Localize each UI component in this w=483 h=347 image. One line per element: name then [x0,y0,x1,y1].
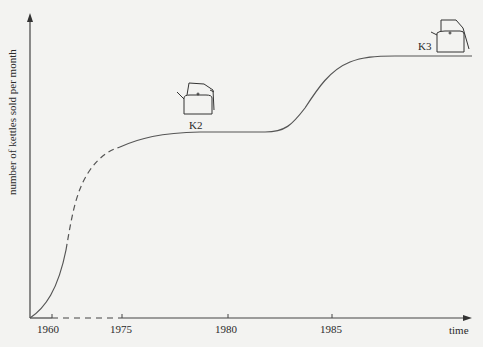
kettle-k2-icon [177,83,214,114]
tick-label-1975: 1975 [110,323,133,335]
tick-label-1985: 1985 [320,323,343,335]
sales-curve-main [120,56,472,147]
sales-curve-rise [30,250,66,318]
tick-label-1980: 1980 [215,323,238,335]
chart-canvas: K2 K3 1960 1975 1980 1985 time number of… [0,0,483,347]
k3-label: K3 [418,40,432,52]
y-axis-arrow-icon [27,13,33,22]
kettle-k3-icon [431,20,469,52]
y-axis-label: number of kettles sold per month [6,49,18,195]
x-axis-arrow-icon [463,315,472,321]
tick-label-1960: 1960 [37,323,60,335]
x-axis-label: time [449,324,469,336]
sales-curve-gap [66,147,120,250]
k2-label: K2 [189,119,202,131]
